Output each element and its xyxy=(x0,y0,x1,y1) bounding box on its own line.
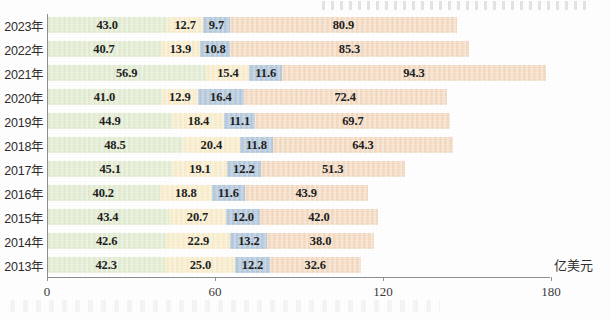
bar-row: 2023年43.012.79.780.9 xyxy=(0,14,610,36)
bar-segment[interactable]: 12.0 xyxy=(226,209,260,225)
bar-segment[interactable]: 43.4 xyxy=(47,209,169,225)
stacked-bar[interactable]: 45.119.112.251.3 xyxy=(47,161,405,177)
segment-value-label: 42.6 xyxy=(96,234,117,249)
bar-segment[interactable]: 44.9 xyxy=(47,113,173,129)
bar-segment[interactable]: 20.4 xyxy=(183,137,240,153)
x-axis-tick-label: 0 xyxy=(44,284,51,300)
segment-value-label: 32.6 xyxy=(304,258,325,273)
bar-segment[interactable]: 13.9 xyxy=(161,41,200,57)
bar-segment[interactable]: 56.9 xyxy=(47,65,206,81)
stacked-bar[interactable]: 48.520.411.864.3 xyxy=(47,137,453,153)
segment-value-label: 12.9 xyxy=(169,90,190,105)
bar-segment[interactable]: 45.1 xyxy=(47,161,173,177)
stacked-bar[interactable]: 40.218.811.643.9 xyxy=(47,185,368,201)
bar-segment[interactable]: 11.1 xyxy=(224,113,255,129)
bar-segment[interactable]: 18.8 xyxy=(160,185,213,201)
bar-segment[interactable]: 80.9 xyxy=(230,17,457,33)
segment-value-label: 11.6 xyxy=(218,186,239,201)
bar-segment[interactable]: 69.7 xyxy=(255,113,450,129)
segment-value-label: 56.9 xyxy=(116,66,137,81)
stacked-bar[interactable]: 43.012.79.780.9 xyxy=(47,17,457,33)
x-axis-tick xyxy=(383,277,384,281)
bar-segment[interactable]: 94.3 xyxy=(282,65,546,81)
segment-value-label: 12.2 xyxy=(242,258,263,273)
bar-row: 2018年48.520.411.864.3 xyxy=(0,134,610,156)
row-category-label: 2016年 xyxy=(2,184,44,203)
segment-value-label: 43.4 xyxy=(97,210,118,225)
bar-segment[interactable]: 51.3 xyxy=(261,161,405,177)
x-axis-tick xyxy=(215,277,216,281)
segment-value-label: 13.2 xyxy=(238,234,259,249)
bar-segment[interactable]: 25.0 xyxy=(165,257,235,273)
y-axis-line xyxy=(47,14,48,278)
stacked-bar[interactable]: 40.713.910.885.3 xyxy=(47,41,469,57)
bar-segment[interactable]: 19.1 xyxy=(173,161,226,177)
bar-segment[interactable]: 11.6 xyxy=(212,185,244,201)
bar-segment[interactable]: 22.9 xyxy=(166,233,230,249)
bar-segment[interactable]: 32.6 xyxy=(270,257,361,273)
bar-segment[interactable]: 12.9 xyxy=(162,89,198,105)
bar-segment[interactable]: 11.6 xyxy=(249,65,281,81)
row-category-label: 2020年 xyxy=(2,88,44,107)
bar-segment[interactable]: 38.0 xyxy=(267,233,373,249)
bar-segment[interactable]: 40.2 xyxy=(47,185,160,201)
bar-segment[interactable]: 16.4 xyxy=(198,89,244,105)
bar-segment[interactable]: 41.0 xyxy=(47,89,162,105)
stacked-bar[interactable]: 44.918.411.169.7 xyxy=(47,113,450,129)
segment-value-label: 40.2 xyxy=(93,186,114,201)
stacked-bar[interactable]: 41.012.916.472.4 xyxy=(47,89,447,105)
row-category-label: 2015年 xyxy=(2,208,44,227)
segment-value-label: 16.4 xyxy=(210,90,231,105)
segment-value-label: 12.0 xyxy=(233,210,254,225)
bar-segment[interactable]: 13.2 xyxy=(230,233,267,249)
row-category-label: 2022年 xyxy=(2,40,44,59)
bar-segment[interactable]: 20.7 xyxy=(169,209,227,225)
bar-segment[interactable]: 18.4 xyxy=(173,113,225,129)
segment-value-label: 85.3 xyxy=(339,42,360,57)
axis-unit-label: 亿美元 xyxy=(554,255,593,274)
bar-row: 2013年42.325.012.232.6 xyxy=(0,254,610,276)
stacked-bar[interactable]: 56.915.411.694.3 xyxy=(47,65,546,81)
bar-segment[interactable]: 64.3 xyxy=(273,137,453,153)
stacked-bar[interactable]: 43.420.712.042.0 xyxy=(47,209,378,225)
bar-segment[interactable]: 12.7 xyxy=(167,17,203,33)
bar-segment[interactable]: 9.7 xyxy=(203,17,230,33)
bar-segment[interactable]: 12.2 xyxy=(227,161,261,177)
segment-value-label: 18.8 xyxy=(175,186,196,201)
segment-value-label: 94.3 xyxy=(403,66,424,81)
bar-segment[interactable]: 42.6 xyxy=(47,233,166,249)
bar-segment[interactable]: 48.5 xyxy=(47,137,183,153)
segment-value-label: 72.4 xyxy=(334,90,355,105)
faint-header-text xyxy=(322,1,592,10)
segment-value-label: 19.1 xyxy=(189,162,210,177)
segment-value-label: 41.0 xyxy=(94,90,115,105)
bar-segment[interactable]: 42.3 xyxy=(47,257,165,273)
bar-row: 2022年40.713.910.885.3 xyxy=(0,38,610,60)
bar-segment[interactable]: 72.4 xyxy=(244,89,447,105)
segment-value-label: 9.7 xyxy=(209,18,224,33)
bar-segment[interactable]: 43.0 xyxy=(47,17,167,33)
stacked-bar[interactable]: 42.622.913.238.0 xyxy=(47,233,374,249)
x-axis-tick xyxy=(47,277,48,281)
bar-segment[interactable]: 11.8 xyxy=(240,137,273,153)
segment-value-label: 25.0 xyxy=(190,258,211,273)
bar-segment[interactable]: 15.4 xyxy=(206,65,249,81)
segment-value-label: 80.9 xyxy=(333,18,354,33)
bar-segment[interactable]: 43.9 xyxy=(245,185,368,201)
row-category-label: 2019年 xyxy=(2,112,44,131)
bar-segment[interactable]: 12.2 xyxy=(235,257,269,273)
stacked-bar[interactable]: 42.325.012.232.6 xyxy=(47,257,361,273)
segment-value-label: 20.4 xyxy=(201,138,222,153)
x-axis-tick-label: 60 xyxy=(209,284,222,300)
segment-value-label: 43.9 xyxy=(295,186,316,201)
bar-segment[interactable]: 40.7 xyxy=(47,41,161,57)
bar-row: 2014年42.622.913.238.0 xyxy=(0,230,610,252)
segment-value-label: 11.6 xyxy=(255,66,276,81)
bar-segment[interactable]: 42.0 xyxy=(260,209,378,225)
segment-value-label: 48.5 xyxy=(104,138,125,153)
row-category-label: 2023年 xyxy=(2,16,44,35)
bar-segment[interactable]: 10.8 xyxy=(200,41,230,57)
bar-row: 2015年43.420.712.042.0 xyxy=(0,206,610,228)
row-category-label: 2018年 xyxy=(2,136,44,155)
bar-segment[interactable]: 85.3 xyxy=(230,41,469,57)
